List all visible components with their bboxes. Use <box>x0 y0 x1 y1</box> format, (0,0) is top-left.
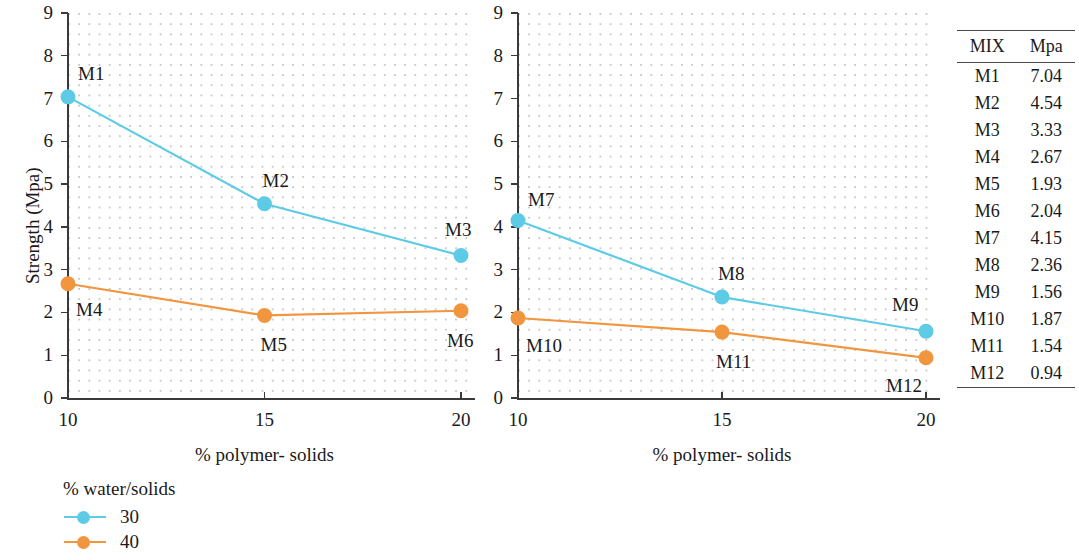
y-tick <box>61 226 68 227</box>
legend-marker-dot <box>77 511 90 524</box>
y-axis-line-left <box>67 13 69 399</box>
table-cell-mpa: 2.04 <box>1018 198 1075 225</box>
table: MIX Mpa M17.04M24.54M33.33M42.67M51.93M6… <box>957 30 1075 388</box>
table-row: M24.54 <box>957 90 1075 117</box>
x-tick <box>460 392 461 399</box>
table-cell-mix: M8 <box>957 252 1018 279</box>
legend-swatch-icon-40 <box>62 533 108 551</box>
y-tick <box>511 12 518 13</box>
point-label-M2: M2 <box>263 171 289 190</box>
legend-item-40[interactable]: 40 <box>62 529 322 554</box>
legend-marker-dot <box>77 536 90 549</box>
y-tick <box>511 226 518 227</box>
table-header-mpa: Mpa <box>1018 31 1075 63</box>
legend-item-30[interactable]: 30 <box>62 504 322 529</box>
table-cell-mix: M1 <box>957 63 1018 91</box>
y-tick <box>511 312 518 313</box>
y-tick-label: 8 <box>473 46 503 65</box>
table-cell-mix: M11 <box>957 333 1018 360</box>
point-label-M3: M3 <box>445 220 471 239</box>
point-label-M4: M4 <box>76 300 102 319</box>
legend-label: 40 <box>108 532 139 551</box>
table-cell-mix: M5 <box>957 171 1018 198</box>
table-cell-mix: M6 <box>957 198 1018 225</box>
y-tick <box>511 183 518 184</box>
table-header-mix: MIX <box>957 31 1018 63</box>
point-label-M11: M11 <box>716 352 751 371</box>
y-tick <box>61 312 68 313</box>
x-tick <box>67 392 68 399</box>
y-tick-label: 4 <box>473 217 503 236</box>
plot-area-right <box>518 13 934 398</box>
y-tick <box>61 12 68 13</box>
figure-root: 0123456789101520 M1M2M3M4M5M6 % polymer-… <box>0 0 1079 560</box>
point-label-M7: M7 <box>528 190 554 209</box>
table-cell-mpa: 2.67 <box>1018 144 1075 171</box>
legend-swatch-icon-30 <box>62 508 108 526</box>
y-tick-label: 6 <box>23 131 53 150</box>
x-axis-title-right: % polymer- solids <box>458 444 986 466</box>
table-row: M17.04 <box>957 63 1075 91</box>
y-tick-label: 1 <box>473 345 503 364</box>
x-axis-title-left: % polymer- solids <box>8 444 521 466</box>
x-tick-label: 15 <box>235 410 295 429</box>
x-tick <box>721 392 722 399</box>
x-tick <box>517 392 518 399</box>
x-tick-label: 15 <box>692 410 752 429</box>
y-tick <box>511 55 518 56</box>
y-tick-label: 6 <box>473 131 503 150</box>
table-cell-mpa: 1.56 <box>1018 279 1075 306</box>
y-tick <box>61 98 68 99</box>
x-tick-label: 20 <box>896 410 956 429</box>
table-row: M101.87 <box>957 306 1075 333</box>
table-cell-mpa: 1.87 <box>1018 306 1075 333</box>
y-tick <box>511 98 518 99</box>
table-row: M42.67 <box>957 144 1075 171</box>
chart-panel-right: 0123456789101520 M7M8M9M10M11M12 % polym… <box>480 0 950 470</box>
table-row: M120.94 <box>957 360 1075 388</box>
x-axis-line-right <box>517 398 940 400</box>
point-label-M6: M6 <box>447 331 473 350</box>
mix-strength-table: MIX Mpa M17.04M24.54M33.33M42.67M51.93M6… <box>957 30 1075 388</box>
y-axis-title-left: Strength (Mpa) <box>22 167 44 284</box>
point-label-M8: M8 <box>718 264 744 283</box>
table-head: MIX Mpa <box>957 31 1075 63</box>
point-label-M10: M10 <box>526 336 562 355</box>
point-label-M1: M1 <box>78 64 104 83</box>
y-tick <box>61 141 68 142</box>
point-label-M9: M9 <box>892 295 918 314</box>
table-row: M33.33 <box>957 117 1075 144</box>
table-row: M82.36 <box>957 252 1075 279</box>
table-row: M74.15 <box>957 225 1075 252</box>
y-tick <box>61 183 68 184</box>
point-label-M5: M5 <box>261 335 287 354</box>
table-body: M17.04M24.54M33.33M42.67M51.93M62.04M74.… <box>957 63 1075 388</box>
x-axis-line-left <box>67 398 475 400</box>
legend-items: 3040 <box>62 504 322 554</box>
y-tick <box>61 269 68 270</box>
table-row: M91.56 <box>957 279 1075 306</box>
y-tick-label: 2 <box>473 302 503 321</box>
table-cell-mpa: 3.33 <box>1018 117 1075 144</box>
legend-title: % water/solids <box>62 478 322 500</box>
y-tick-label: 9 <box>23 3 53 22</box>
point-label-M12: M12 <box>886 376 922 395</box>
y-tick-label: 5 <box>473 174 503 193</box>
table-row: M62.04 <box>957 198 1075 225</box>
y-tick-label: 9 <box>473 3 503 22</box>
y-tick-label: 0 <box>23 388 53 407</box>
table-cell-mpa: 4.54 <box>1018 90 1075 117</box>
x-tick-label: 10 <box>38 410 98 429</box>
legend-label: 30 <box>108 507 139 526</box>
table-cell-mpa: 1.93 <box>1018 171 1075 198</box>
table-row: M111.54 <box>957 333 1075 360</box>
table-cell-mix: M2 <box>957 90 1018 117</box>
y-tick-label: 3 <box>473 260 503 279</box>
y-tick-label: 7 <box>23 89 53 108</box>
table-row: M51.93 <box>957 171 1075 198</box>
y-tick-label: 1 <box>23 345 53 364</box>
y-tick <box>511 355 518 356</box>
table-cell-mpa: 2.36 <box>1018 252 1075 279</box>
y-tick <box>511 269 518 270</box>
table-cell-mpa: 1.54 <box>1018 333 1075 360</box>
